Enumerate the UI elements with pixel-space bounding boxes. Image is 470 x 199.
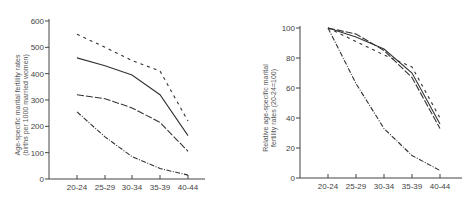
x-tick-label: 35-39 — [402, 182, 423, 191]
y-tick-label: 40 — [286, 114, 295, 123]
x-tick-label: 40-44 — [178, 183, 199, 192]
x-tick-label: 20-24 — [318, 182, 339, 191]
y-tick-label: 400 — [31, 70, 45, 79]
y-axis-label: (births per 1000 married women) — [22, 54, 30, 156]
series-line-dash-dot — [77, 112, 188, 175]
y-tick-label: 60 — [286, 84, 295, 93]
chart-canvas: 010020030040050060020-2425-2930-3435-394… — [0, 0, 470, 199]
x-tick-label: 20-24 — [67, 183, 88, 192]
y-tick-label: 80 — [286, 54, 295, 63]
series-line-long-dash — [77, 95, 188, 152]
chart-figure: 010020030040050060020-2425-2930-3435-394… — [0, 0, 470, 199]
x-tick-label: 30-34 — [374, 182, 395, 191]
y-tick-label: 200 — [31, 122, 45, 131]
series-line-solid — [328, 28, 440, 124]
chart-panel-1: 010020030040050060020-2425-2930-3435-394… — [14, 17, 205, 192]
x-tick-label: 30-34 — [122, 183, 143, 192]
series-line-solid — [77, 58, 188, 136]
x-tick-label: 40-44 — [430, 182, 451, 191]
y-tick-label: 0 — [40, 175, 45, 184]
y-tick-label: 500 — [31, 43, 45, 52]
x-tick-label: 25-29 — [346, 182, 367, 191]
x-tick-label: 35-39 — [150, 183, 171, 192]
y-tick-label: 0 — [291, 174, 296, 183]
y-tick-label: 100 — [282, 24, 296, 33]
y-axis-label: fertility rates (20-24=100) — [270, 69, 278, 147]
series-line-long-dash — [328, 28, 440, 129]
y-tick-label: 100 — [31, 149, 45, 158]
x-tick-label: 25-29 — [95, 183, 116, 192]
y-tick-label: 300 — [31, 96, 45, 105]
chart-panel-2: 02040608010020-2425-2930-3435-3940-44Rel… — [262, 24, 462, 191]
y-tick-label: 600 — [31, 17, 45, 26]
y-axis-label: Relative age-specific marital — [262, 64, 270, 152]
y-tick-label: 20 — [286, 144, 295, 153]
y-axis-label: Age-specific marital fertility rates — [14, 54, 22, 155]
series-line-short-dash — [328, 28, 440, 118]
